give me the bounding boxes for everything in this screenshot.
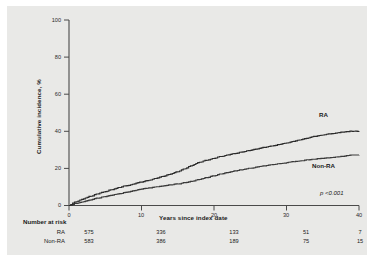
risk-value: 189 xyxy=(222,238,246,244)
risk-value: 583 xyxy=(77,238,101,244)
table-row: RA 575 336 133 51 7 xyxy=(23,229,363,238)
risk-value: 575 xyxy=(77,229,101,235)
y-axis-ticks xyxy=(64,20,69,206)
curve-label-non-ra: Non-RA xyxy=(312,162,335,169)
risk-value: 75 xyxy=(294,238,318,244)
risk-value: 7 xyxy=(348,229,372,235)
risk-value: 15 xyxy=(348,238,372,244)
y-axis-title: Cumulative incidence, % xyxy=(35,79,42,154)
number-at-risk-title: Number at risk xyxy=(23,218,66,225)
y-tick-label-20: 20 xyxy=(43,165,61,171)
y-tick-label-60: 60 xyxy=(43,91,61,97)
risk-row-label: RA xyxy=(23,229,65,235)
y-tick-label-0: 0 xyxy=(43,202,61,208)
y-tick-label-40: 40 xyxy=(43,128,61,134)
y-tick-label-80: 80 xyxy=(43,54,61,60)
risk-row-label: Non-RA xyxy=(23,238,65,244)
x-tick-label-40: 40 xyxy=(349,212,369,218)
table-row: Non-RA 583 386 189 75 15 xyxy=(23,238,363,247)
x-axis-title: Years since index date xyxy=(159,214,228,221)
risk-value: 336 xyxy=(149,229,173,235)
x-tick-label-30: 30 xyxy=(276,212,296,218)
figure-panel: 100 80 60 40 20 0 0 10 20 30 40 Cumulati… xyxy=(7,6,367,255)
curve-label-ra: RA xyxy=(319,111,328,118)
p-value-annotation: p <0.001 xyxy=(320,190,344,196)
risk-value: 51 xyxy=(294,229,318,235)
x-axis-ticks xyxy=(69,206,359,211)
x-tick-label-10: 10 xyxy=(131,212,151,218)
risk-value: 133 xyxy=(222,229,246,235)
risk-value: 386 xyxy=(149,238,173,244)
y-tick-label-100: 100 xyxy=(43,17,61,23)
